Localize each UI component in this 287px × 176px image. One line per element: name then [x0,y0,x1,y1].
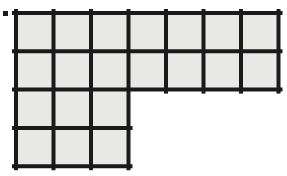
grid-cell [16,13,54,51]
l-shape-grid-svg [0,0,287,176]
grid-cell [166,13,204,51]
grid-cell [241,51,279,89]
grid-cell [91,13,129,51]
grid-cell [129,51,167,89]
grid-cell [129,13,167,51]
corner-speck-icon [3,11,8,16]
grid-cell [91,51,129,89]
grid-cell [204,51,242,89]
grid-cell [166,51,204,89]
grid-cell [54,90,92,128]
figure-canvas [0,0,287,176]
grid-cell [16,128,54,166]
grid-cell [54,128,92,166]
grid-cell [204,13,242,51]
grid-cell [16,51,54,89]
grid-cell [91,128,129,166]
grid-cell [241,13,279,51]
grid-cell [91,90,129,128]
grid-cell [54,51,92,89]
grid-cell [16,90,54,128]
grid-cell [54,13,92,51]
